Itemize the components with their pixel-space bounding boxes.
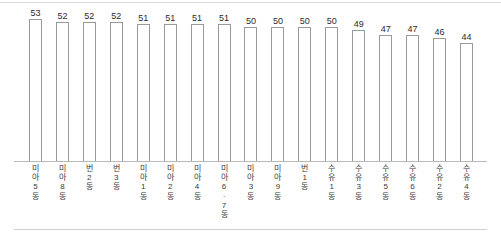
category-label-char: 아 [194, 173, 201, 182]
bar-slot[interactable]: 51 [211, 8, 238, 161]
category-label: 미아4동 [184, 164, 211, 226]
category-label-char: 미 [140, 164, 147, 173]
bar-chart-figure: 5352525251515151505050504947474644 미아5동미… [0, 0, 501, 245]
category-label: 미아3동 [238, 164, 265, 226]
category-label-char: 유 [409, 173, 416, 182]
category-label-char: 수 [463, 164, 470, 173]
bar-slot[interactable]: 52 [76, 8, 103, 161]
bar-value-label: 52 [111, 11, 121, 21]
bar-value-label: 51 [138, 13, 148, 23]
bar-value-label: 50 [246, 16, 256, 26]
plot-area: 5352525251515151505050504947474644 [22, 8, 480, 161]
category-label-char: 유 [463, 173, 470, 182]
category-label-char: 동 [436, 192, 443, 201]
category-label: 미아9동 [264, 164, 291, 226]
category-label-char: 아 [32, 173, 39, 182]
category-label-char: 미 [167, 164, 174, 173]
category-label-char: 5 [33, 182, 37, 191]
category-label-char: 아 [167, 173, 174, 182]
bar-value-label: 50 [327, 16, 337, 26]
bar[interactable] [191, 24, 204, 161]
bar-slot[interactable]: 50 [264, 8, 291, 161]
category-label-char: 9 [276, 182, 280, 191]
bar-slot[interactable]: 51 [184, 8, 211, 161]
bar-value-label: 51 [165, 13, 175, 23]
category-label-char: 1 [303, 173, 307, 182]
bar[interactable] [460, 43, 473, 161]
bar-slot[interactable]: 51 [130, 8, 157, 161]
bar-slot[interactable]: 50 [291, 8, 318, 161]
bar-slot[interactable]: 52 [49, 8, 76, 161]
category-label-char: 아 [221, 173, 228, 182]
category-label: 번3동 [103, 164, 130, 226]
category-label-char: 1 [141, 182, 145, 191]
bar[interactable] [83, 22, 96, 161]
category-axis-line [14, 161, 487, 162]
category-label: 수유5동 [372, 164, 399, 226]
bar-value-label: 51 [219, 13, 229, 23]
bar[interactable] [406, 35, 419, 161]
category-label-char: 1 [330, 182, 334, 191]
bar-value-label: 50 [273, 16, 283, 26]
bar[interactable] [164, 24, 177, 161]
category-label-char: 유 [382, 173, 389, 182]
bar-slot[interactable]: 50 [238, 8, 265, 161]
bar-slot[interactable]: 47 [399, 8, 426, 161]
category-label-char: 7 [222, 201, 226, 210]
bar[interactable] [56, 22, 69, 161]
bar-slot[interactable]: 44 [453, 8, 480, 161]
category-label: 미아5동 [22, 164, 49, 226]
category-label: 미아2동 [157, 164, 184, 226]
category-label-char: 동 [113, 182, 120, 191]
category-label-char: 동 [301, 182, 308, 191]
category-label-char: 6 [410, 182, 414, 191]
bar[interactable] [298, 27, 311, 161]
category-label-char: 동 [194, 192, 201, 201]
bar[interactable] [244, 27, 257, 161]
bar-slot[interactable]: 46 [426, 8, 453, 161]
category-label-char: 동 [382, 192, 389, 201]
category-label-char: 번 [113, 164, 120, 173]
bar-value-label: 50 [300, 16, 310, 26]
category-label-char: 미 [59, 164, 66, 173]
category-label: 미아6·7동 [211, 164, 238, 226]
category-label-char: 동 [221, 210, 228, 219]
category-label-char: 번 [86, 164, 93, 173]
category-label-char: 유 [436, 173, 443, 182]
bar-slot[interactable]: 47 [372, 8, 399, 161]
category-label-char: 유 [355, 173, 362, 182]
bar-slot[interactable]: 49 [345, 8, 372, 161]
bar[interactable] [110, 22, 123, 161]
bar-slot[interactable]: 52 [103, 8, 130, 161]
bar-value-label: 47 [408, 24, 418, 34]
bar[interactable] [218, 24, 231, 161]
bar-value-label: 47 [381, 24, 391, 34]
category-label-char: 아 [59, 173, 66, 182]
bar[interactable] [325, 27, 338, 161]
bar-value-label: 44 [461, 32, 471, 42]
bar[interactable] [379, 35, 392, 161]
category-label-char: 수 [409, 164, 416, 173]
bar[interactable] [29, 19, 42, 161]
category-label-char: 미 [247, 164, 254, 173]
category-label-char: 수 [382, 164, 389, 173]
bar[interactable] [433, 38, 446, 161]
bar-slot[interactable]: 51 [157, 8, 184, 161]
bar-slot[interactable]: 50 [318, 8, 345, 161]
bar[interactable] [137, 24, 150, 161]
category-label-char: 미 [194, 164, 201, 173]
category-label-char: 미 [221, 164, 228, 173]
category-label-char: 3 [114, 173, 118, 182]
category-label-char: 아 [274, 173, 281, 182]
category-label-char: 4 [464, 182, 468, 191]
category-label-char: 동 [274, 192, 281, 201]
category-label-char: 동 [247, 192, 254, 201]
category-label-char: 동 [355, 192, 362, 201]
bar[interactable] [352, 30, 365, 161]
category-label-char: 3 [356, 182, 360, 191]
category-label-char: 미 [274, 164, 281, 173]
bar-slot[interactable]: 53 [22, 8, 49, 161]
category-label-char: 동 [59, 192, 66, 201]
bar[interactable] [271, 27, 284, 161]
category-label-char: 2 [168, 182, 172, 191]
